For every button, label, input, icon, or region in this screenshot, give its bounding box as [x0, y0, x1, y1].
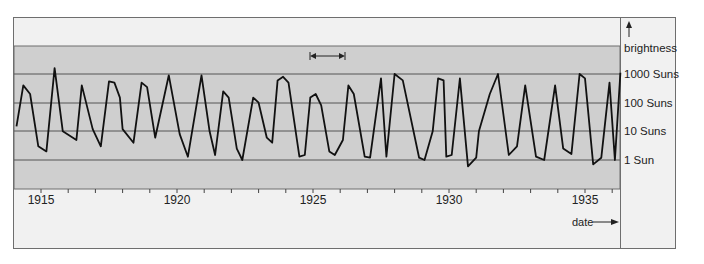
- x-tick-1920: 1920: [164, 193, 191, 207]
- y-axis-title: brightness: [624, 42, 677, 54]
- x-tick-1930: 1930: [436, 193, 463, 207]
- y-tick-100: 100 Suns: [624, 97, 673, 109]
- x-tick-1925: 1925: [300, 193, 327, 207]
- x-tick-1915: 1915: [28, 193, 55, 207]
- y-tick-1000: 1000 Suns: [624, 68, 679, 80]
- y-axis-arrow-icon: [626, 21, 632, 37]
- x-axis-arrow-icon: [593, 219, 619, 225]
- x-tick-1935: 1935: [572, 193, 599, 207]
- x-axis-title: date: [572, 216, 593, 228]
- y-tick-1: 1 Sun: [624, 154, 654, 166]
- y-tick-10: 10 Suns: [624, 125, 666, 137]
- plot-area: [0, 0, 704, 264]
